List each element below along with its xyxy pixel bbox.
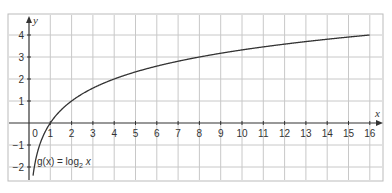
y-tick-label: 1 (18, 96, 24, 107)
x-tick-label: 9 (218, 128, 224, 139)
x-tick-label: 13 (300, 128, 312, 139)
chart-canvas: 0123456789101112131415164321−1−2 x y g(x… (0, 0, 392, 193)
y-axis-label: y (32, 14, 38, 26)
x-axis-label: x (374, 107, 380, 119)
x-tick-label: 1 (48, 128, 54, 139)
y-tick-label: 4 (18, 30, 24, 41)
function-label-suffix: x (83, 156, 92, 167)
y-tick-label: 3 (18, 52, 24, 63)
x-tick-label: 11 (258, 128, 269, 139)
x-tick-label: 6 (154, 128, 160, 139)
x-tick-label: 12 (279, 128, 291, 139)
x-tick-label: 2 (69, 128, 75, 139)
y-tick-label: 2 (18, 74, 24, 85)
y-tick-label: −2 (13, 162, 25, 173)
x-tick-label: 3 (90, 128, 96, 139)
y-tick-label: −1 (13, 140, 25, 151)
x-tick-label: 15 (343, 128, 355, 139)
x-tick-label: 0 (32, 128, 38, 139)
x-tick-label: 7 (175, 128, 181, 139)
x-tick-label: 5 (133, 128, 139, 139)
x-tick-label: 14 (322, 128, 334, 139)
function-label-prefix: g(x) = log (37, 156, 79, 167)
x-tick-label: 4 (111, 128, 117, 139)
x-tick-label: 16 (364, 128, 376, 139)
x-tick-label: 10 (236, 128, 248, 139)
x-tick-label: 8 (197, 128, 203, 139)
